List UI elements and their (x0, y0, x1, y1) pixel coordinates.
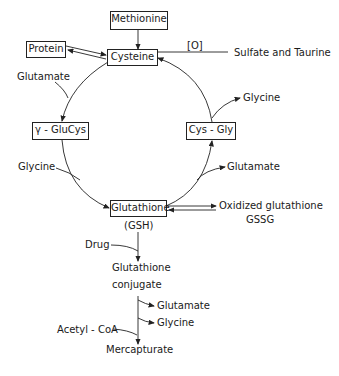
glutathione-conjugate-label-line2: conjugate (112, 279, 160, 291)
oxidized-glutathione-label: Oxidized glutathione (219, 200, 323, 212)
acetyl-coa-label: Acetyl - CoA (57, 324, 118, 336)
drug-label: Drug (85, 239, 110, 251)
glycine-conjugate-label: Glycine (157, 317, 194, 329)
gssg-label: GSSG (246, 214, 274, 226)
glutamate-conjugate-label: Glutamate (157, 300, 210, 312)
glutamate-input-label: Glutamate (17, 71, 70, 83)
oxidation-label: [O] (187, 40, 203, 52)
glutathione-conjugate-label-line1: Glutathione (112, 262, 167, 274)
glutathione-node: Glutathione (110, 200, 167, 217)
glycine-output-label: Glycine (243, 92, 280, 104)
glycine-input-label: Glycine (18, 161, 55, 173)
gsh-label: (GSH) (124, 220, 153, 232)
protein-node: Protein (26, 41, 66, 58)
gamma-glucys-node: γ - GluCys (32, 122, 89, 140)
mercapturate-label: Mercapturate (106, 344, 173, 356)
sulfate-taurine-label: Sulfate and Taurine (234, 47, 331, 59)
cysteine-node: Cysteine (107, 49, 158, 66)
glutamate-output-label: Glutamate (227, 161, 280, 173)
methionine-node: Methionine (110, 11, 168, 30)
cys-gly-node: Cys - Gly (186, 122, 236, 140)
